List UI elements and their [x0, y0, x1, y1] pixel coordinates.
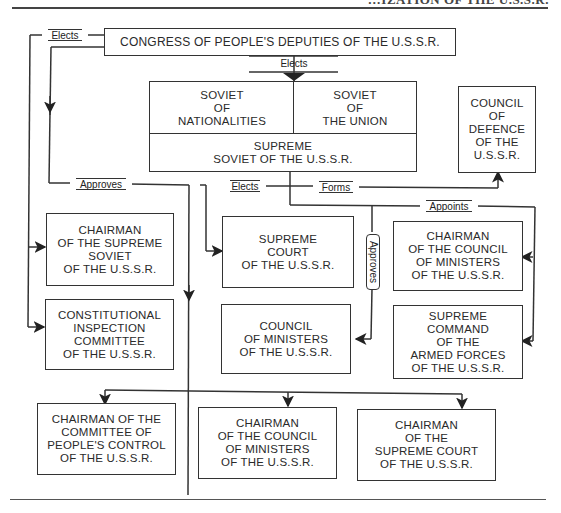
elects-text: Elects: [48, 29, 82, 41]
supreme-court-box: SUPREME COURT OF THE U.S.S.R.: [222, 216, 354, 288]
approves-label-left: Approves: [70, 178, 132, 190]
soviet-of-the-union-box: SOVIET OF THE UNION: [293, 81, 417, 135]
council-of-ministers-box: COUNCIL OF MINISTERS OF THE U.S.S.R.: [221, 304, 351, 374]
congress-box: CONGRESS OF PEOPLE'S DEPUTIES OF THE U.S…: [104, 28, 456, 56]
chairman-council-ministers-right-box: CHAIRMAN OF THE COUNCIL OF MINISTERS OF …: [393, 221, 523, 291]
approves-text: Approves: [76, 178, 126, 190]
elects-text: Elects: [230, 180, 260, 192]
bottom-rule: [10, 499, 546, 500]
chairman-peoples-control-box: CHAIRMAN OF THE COMMITTEE OF PEOPLE'S CO…: [37, 403, 176, 475]
forms-label: Forms: [313, 181, 359, 193]
elects-label-top-left: Elects: [42, 29, 88, 41]
constitutional-inspection-committee-box: CONSTITUTIONAL INSPECTION COMMITTEE OF T…: [45, 299, 174, 370]
elects-text: Elects: [280, 58, 307, 69]
supreme-soviet-box: SUPREME SOVIET OF THE U.S.S.R.: [149, 133, 417, 172]
forms-text: Forms: [319, 181, 353, 193]
chairman-council-ministers-bottom-box: CHAIRMAN OF THE COUNCIL OF MINISTERS OF …: [198, 407, 337, 479]
chairman-supreme-court-box: CHAIRMAN OF THE SUPREME COURT OF THE U.S…: [357, 409, 496, 481]
elects-label-mid: Elects: [224, 180, 266, 192]
elects-label-center: Elects: [271, 58, 317, 70]
supreme-command-box: SUPREME COMMAND OF THE ARMED FORCES OF T…: [393, 305, 523, 379]
appoints-label: Appoints: [420, 200, 478, 212]
appoints-text: Appoints: [426, 200, 472, 212]
chairman-supreme-soviet-box: CHAIRMAN OF THE SUPREME SOVIET OF THE U.…: [46, 213, 174, 286]
approves-label-vertical: Approves: [366, 234, 380, 290]
approves-text: Approves: [368, 241, 379, 283]
council-of-defence-box: COUNCIL OF DEFENCE OF THE U.S.S.R.: [458, 86, 536, 173]
soviet-of-nationalities-box: SOVIET OF NATIONALITIES: [149, 81, 295, 135]
